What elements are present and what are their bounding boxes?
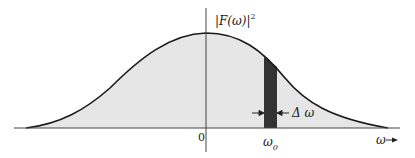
omega-zero-label: ω0 [263,135,278,152]
x-axis-arrow-icon [386,138,398,143]
omega-zero-subscript: 0 [273,143,278,152]
x-axis-label: ω [376,133,386,147]
y-axis-label-exponent: 2 [251,12,256,21]
origin-label: 0 [198,131,205,144]
spectrum-figure: |F(ω)|2 0 ω0 Δ ω ω [0,0,415,158]
y-axis-label: |F(ω)|2 [215,12,256,28]
delta-omega-label: Δ ω [291,106,314,120]
